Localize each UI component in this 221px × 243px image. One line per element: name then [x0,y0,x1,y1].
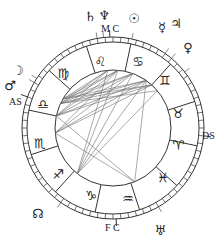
planet-mars-icon: ♂ [4,79,16,92]
sign-taurus-icon: ♉ [172,107,184,120]
sign-scorpio-icon: ♏ [34,137,46,150]
sign-libra-icon: ♎ [37,98,49,111]
sign-sagittarius-icon: ♐ [52,168,64,181]
degree-ticks [22,37,204,219]
sign-cancer-icon: ♋ [132,55,144,68]
sign-virgo-icon: ♍ [57,67,69,80]
planet-venus-icon: ♀ [183,41,193,54]
sign-aquarius-icon: ♒ [122,192,134,205]
sign-pisces-icon: ♓ [157,171,169,184]
planet-jupiter-icon: ♃ [170,17,182,30]
descendant-label: DS [202,131,215,141]
sign-dividers [29,44,197,212]
sign-capricorn-icon: ♑ [85,189,97,202]
planet-uranus-icon: ♅ [154,224,166,237]
sign-leo-icon: ♌ [94,55,106,68]
degree-ring-inner [27,42,199,214]
planet-moon-icon: ☽ [12,64,24,77]
planet-pointers [21,30,211,226]
planet-saturn-icon: ♄ [84,10,96,23]
fc-label: F C [105,223,120,233]
mc-label: M C [101,24,119,34]
sign-aries-icon: ♈ [172,139,184,152]
planet-node-icon: ☊ [32,207,44,220]
planet-sun-icon: ☉ [128,12,140,25]
aspect-lines [55,70,157,182]
sign-gemini-icon: ♊ [159,74,171,87]
ascendant-label: AS [9,97,22,107]
planet-mercury-icon: ☿ [158,21,166,34]
planet-neptune-icon: ♆ [98,9,110,22]
